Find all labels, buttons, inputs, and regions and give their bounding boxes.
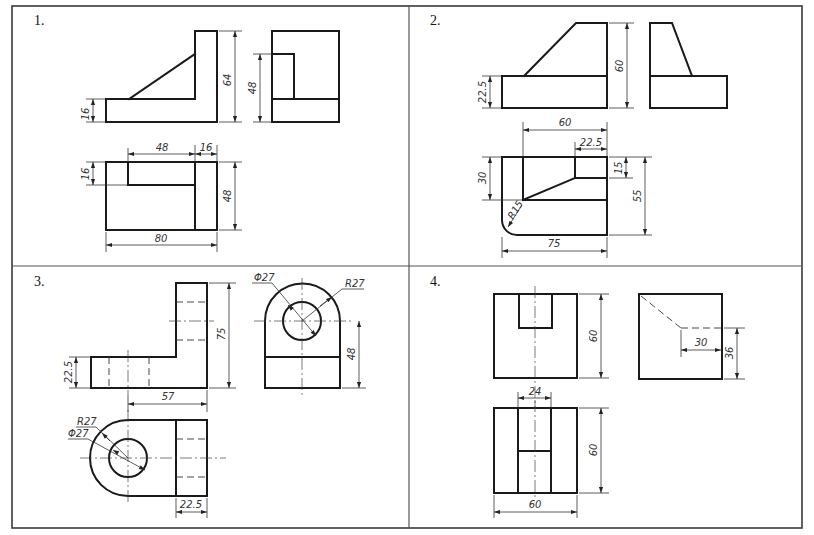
- svg-text:22.5: 22.5: [180, 499, 202, 510]
- problem-number: 2.: [430, 13, 441, 28]
- svg-text:48: 48: [156, 142, 169, 153]
- top-view: [494, 400, 577, 500]
- dimension-48-side: 48: [247, 54, 272, 122]
- svg-text:60: 60: [559, 117, 572, 128]
- dimension-60-front: 60: [579, 294, 609, 378]
- dimension-30: 30: [477, 157, 522, 200]
- svg-text:75: 75: [216, 328, 227, 341]
- svg-text:22.5: 22.5: [477, 81, 488, 103]
- problem-number: 4.: [430, 274, 441, 289]
- dimension-48-center: 48: [342, 321, 366, 388]
- dimension-60-depth: 60: [579, 408, 609, 493]
- front-view: [91, 283, 214, 395]
- dimension-30: 30: [681, 330, 721, 357]
- svg-text:Φ27: Φ27: [68, 428, 89, 439]
- sheet-frame: [12, 6, 802, 528]
- top-view: [80, 410, 226, 505]
- svg-text:64: 64: [222, 74, 233, 87]
- svg-text:30: 30: [695, 337, 708, 348]
- svg-text:48: 48: [346, 348, 357, 361]
- svg-text:48: 48: [247, 82, 258, 95]
- dimension-75: 75: [209, 283, 236, 388]
- dimension-22-5-base: 22.5: [477, 76, 501, 108]
- problem-2: 2. 60 22.5: [430, 13, 727, 258]
- svg-text:80: 80: [155, 233, 168, 244]
- problem-1: 1. 64 16 48: [34, 13, 339, 252]
- problem-4: 4. 60 30 36: [430, 274, 745, 518]
- drawing-sheet: 1. 64 16 48: [0, 0, 814, 535]
- svg-text:75: 75: [548, 238, 561, 249]
- svg-text:30: 30: [477, 172, 488, 185]
- dimension-22-5-wall: 22.5: [176, 498, 207, 518]
- problem-number: 1.: [34, 13, 45, 28]
- svg-text:R27: R27: [345, 278, 365, 289]
- svg-text:22.5: 22.5: [580, 137, 602, 148]
- dimension-15: 15: [609, 157, 652, 178]
- svg-text:48: 48: [222, 190, 233, 203]
- svg-text:Φ27: Φ27: [254, 272, 275, 283]
- dimension-48-depth: 48: [219, 162, 242, 230]
- svg-text:60: 60: [529, 499, 542, 510]
- dimension-22-5-step: 22.5: [575, 137, 607, 156]
- top-view: [502, 157, 607, 235]
- side-view: [639, 294, 722, 379]
- side-view: [650, 23, 727, 108]
- svg-text:60: 60: [614, 60, 625, 73]
- dimension-16-wall: 16: [195, 142, 217, 154]
- dimension-60-width: 60: [494, 495, 577, 518]
- svg-text:36: 36: [724, 347, 735, 360]
- dimension-r15: R15: [505, 199, 525, 227]
- svg-text:R27: R27: [77, 416, 97, 427]
- problem-3: 3. 75 22.5 57: [34, 272, 366, 518]
- svg-text:57: 57: [162, 391, 175, 402]
- top-view: [106, 162, 217, 230]
- svg-text:55: 55: [632, 190, 643, 203]
- side-view: [254, 278, 352, 396]
- dimension-22-5-base: 22.5: [63, 357, 90, 388]
- svg-text:22.5: 22.5: [63, 361, 74, 383]
- svg-text:16: 16: [200, 142, 213, 153]
- dimension-57: 57: [128, 390, 207, 412]
- dimension-75: 75: [502, 237, 607, 258]
- outer-border: [12, 6, 802, 528]
- front-view: [502, 23, 607, 108]
- dimension-36: 36: [724, 328, 745, 379]
- side-view: [272, 31, 339, 122]
- dimension-16-notch-depth: 16: [80, 162, 127, 185]
- dimension-64: 64: [219, 31, 242, 122]
- problem-number: 3.: [34, 274, 45, 289]
- svg-text:60: 60: [588, 330, 599, 343]
- dimension-24: 24: [518, 386, 551, 407]
- dimension-16-base: 16: [80, 99, 105, 122]
- dimension-60-height: 60: [609, 23, 634, 108]
- svg-text:15: 15: [613, 162, 624, 175]
- svg-text:R15: R15: [505, 199, 525, 222]
- dimension-80: 80: [106, 232, 217, 252]
- svg-text:16: 16: [80, 168, 91, 181]
- svg-text:16: 16: [80, 108, 91, 121]
- svg-text:60: 60: [588, 444, 599, 457]
- svg-text:24: 24: [529, 386, 542, 397]
- dimension-phi27-top: Φ27: [68, 428, 145, 470]
- front-view: [106, 31, 217, 122]
